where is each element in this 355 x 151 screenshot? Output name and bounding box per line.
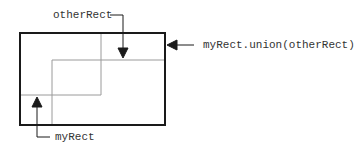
my-rect-arrow-icon [32, 97, 50, 137]
my-rect [20, 33, 101, 95]
my-rect-label: myRect [55, 131, 95, 143]
other-rect-arrow-icon [110, 15, 128, 58]
union-rect [20, 33, 165, 125]
union-label: myRect.union(otherRect) [203, 39, 355, 51]
other-rect [52, 60, 165, 125]
union-arrow-icon [167, 40, 194, 50]
other-rect-label: otherRect [53, 9, 112, 21]
